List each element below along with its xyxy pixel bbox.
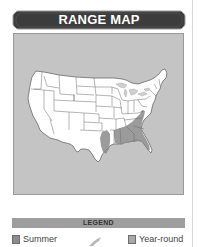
legend-item-year-round: Year-round (128, 233, 183, 245)
page-edge-rule (192, 0, 193, 247)
legend-title: LEGEND (12, 218, 185, 228)
legend-item-summer: Summer (12, 233, 57, 245)
us-landmass (28, 69, 167, 162)
page-title: RANGE MAP (12, 10, 186, 30)
summer-swatch (12, 235, 20, 244)
legend-label-summer: Summer (23, 234, 57, 244)
range-map (13, 33, 184, 195)
us-map (14, 34, 183, 194)
legend-label-year-round: Year-round (139, 234, 183, 244)
bird-illustration-fragment (87, 236, 103, 247)
range-map-banner: RANGE MAP (12, 10, 186, 30)
year-round-swatch (128, 235, 136, 244)
legend-header: LEGEND (12, 218, 185, 228)
